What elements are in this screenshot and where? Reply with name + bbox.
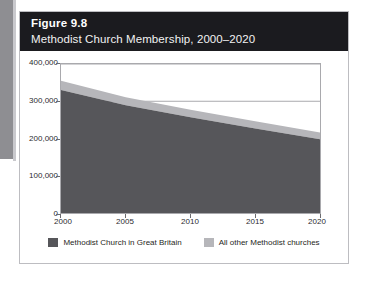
legend-swatch-icon <box>48 238 58 247</box>
legend-item-all-other-methodist-churches: All other Methodist churches <box>204 238 320 247</box>
x-tick-label-2000: 2000 <box>54 217 72 226</box>
area-chart-svg <box>61 64 320 213</box>
x-axis-labels: 2000 2005 2010 2015 2020 <box>60 217 321 231</box>
x-tick-label-2015: 2015 <box>246 217 264 226</box>
x-tick-label-2020: 2020 <box>308 217 326 226</box>
plot-wrap: 400,000 300,000 200,000 100,000 0 <box>20 51 348 229</box>
page-edge-shadow <box>13 0 16 161</box>
legend-item-label: Methodist Church in Great Britain <box>63 238 181 247</box>
x-tick-label-2005: 2005 <box>116 217 134 226</box>
x-tick-label-2010: 2010 <box>181 217 199 226</box>
legend-item-methodist-church-great-britain: Methodist Church in Great Britain <box>48 238 181 247</box>
page-edge-artifact <box>0 0 13 159</box>
figure-number: Figure 9.8 <box>31 16 348 31</box>
series-methodist-church-great-britain-area <box>61 90 320 213</box>
legend-item-label: All other Methodist churches <box>219 238 320 247</box>
figure-container: Figure 9.8 Methodist Church Membership, … <box>19 11 349 264</box>
plot-area <box>60 63 321 214</box>
figure-header: Figure 9.8 Methodist Church Membership, … <box>20 12 348 51</box>
chart-body: 400,000 300,000 200,000 100,000 0 <box>20 51 348 263</box>
legend-swatch-icon <box>204 238 214 247</box>
figure-title: Methodist Church Membership, 2000–2020 <box>31 31 348 47</box>
y-axis-ticks <box>20 63 60 214</box>
chart-legend: Methodist Church in Great Britain All ot… <box>20 234 348 250</box>
